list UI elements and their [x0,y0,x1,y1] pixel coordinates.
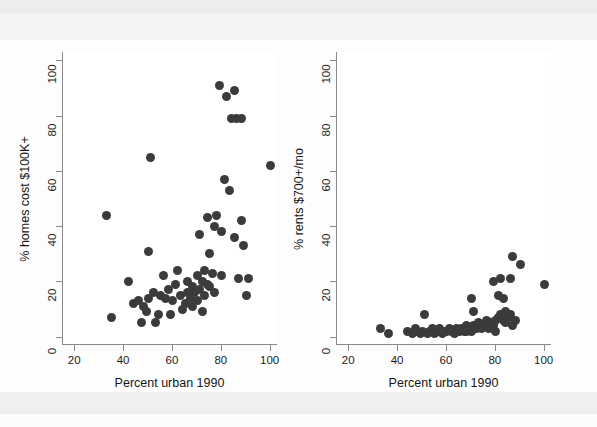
scatter-point [234,274,243,283]
scatter-panel-left: 02040608010020406080100 Percent urban 19… [0,0,298,400]
y-axis-tick-label: 0 [320,336,332,366]
x-axis-tick [397,345,398,351]
x-axis-title-right: Percent urban 1990 [389,376,499,390]
scatter-panel-right: 02040608010020406080100 Percent urban 19… [280,0,578,400]
scatter-point [144,247,153,256]
scatter-point [208,269,217,278]
scatter-point [491,327,500,336]
x-axis-tick [446,345,447,351]
scatter-point [151,318,160,327]
scatter-point [239,241,248,250]
y-axis-tick-label: 80 [320,115,332,145]
figure-scanned-page: 02040608010020406080100 Percent urban 19… [0,0,597,427]
scatter-point [205,249,214,258]
scatter-point [212,211,221,220]
scatter-point [217,271,226,280]
scatter-point [107,313,116,322]
x-axis-tick [544,345,545,351]
scatter-point [203,213,212,222]
y-axis-title-left: % homes cost $100K+ [18,136,32,261]
scatter-point [225,186,234,195]
x-axis-tick [123,345,124,351]
plot-area-left [62,52,277,345]
y-axis-tick-label: 0 [46,336,58,366]
scatter-point [198,307,207,316]
x-axis-tick-label: 80 [488,354,501,366]
y-axis-tick-label: 60 [46,170,58,200]
scatter-point [159,271,168,280]
scatter-point [244,274,253,283]
scatter-point [166,310,175,319]
scatter-point [137,318,146,327]
scatter-point [215,81,224,90]
scatter-point [195,230,204,239]
scatter-point [266,161,275,170]
y-axis-tick-label: 100 [46,59,58,89]
x-axis-tick-label: 60 [166,354,179,366]
scatter-point [499,294,508,303]
scatter-point [384,329,393,338]
scatter-point [220,175,229,184]
x-axis-tick-label: 20 [68,354,81,366]
scatter-point [230,86,239,95]
scatter-point [217,227,226,236]
scatter-point [508,252,517,261]
x-axis-tick-label: 100 [534,354,553,366]
scatter-point [469,307,478,316]
scatter-point [420,310,429,319]
scatter-point [230,233,239,242]
x-axis-tick [270,345,271,351]
x-axis-tick [495,345,496,351]
scatter-point [540,280,549,289]
scatter-point [210,288,219,297]
scatter-point [200,291,209,300]
y-axis-tick-label: 60 [320,170,332,200]
scatter-point [511,316,520,325]
y-axis-tick-label: 80 [46,115,58,145]
scatter-point [242,291,251,300]
x-axis-tick-label: 60 [440,354,453,366]
scatter-point [102,211,111,220]
scatter-point [516,260,525,269]
x-axis-tick-label: 100 [260,354,279,366]
x-axis-tick [74,345,75,351]
x-axis-tick-label: 20 [342,354,355,366]
scatter-point [496,274,505,283]
y-axis-tick-label: 20 [320,280,332,310]
plot-area-right [336,52,551,345]
scatter-point [171,280,180,289]
x-axis-title-left: Percent urban 1990 [115,376,225,390]
x-axis-tick [348,345,349,351]
y-axis-tick-label: 20 [46,280,58,310]
y-axis-title-right: % rents $700+/mo [292,148,306,250]
x-axis-tick [172,345,173,351]
y-axis-tick-label: 40 [46,225,58,255]
scatter-point [142,307,151,316]
scatter-point [237,216,246,225]
y-axis-tick-label: 100 [320,59,332,89]
y-axis-tick-label: 40 [320,225,332,255]
scatter-point [154,310,163,319]
scatter-point [237,114,246,123]
scatter-point [173,266,182,275]
scatter-point [146,153,155,162]
scatter-point [124,277,133,286]
x-axis-tick-label: 80 [214,354,227,366]
scatter-point [506,274,515,283]
x-axis-tick [221,345,222,351]
x-axis-tick-label: 40 [391,354,404,366]
scan-artifact-band-bottom-2 [0,414,597,427]
x-axis-tick-label: 40 [117,354,130,366]
scatter-point [467,294,476,303]
